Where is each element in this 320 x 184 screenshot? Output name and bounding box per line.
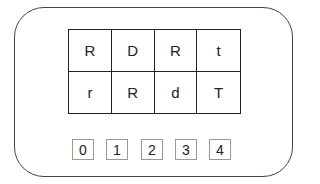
option-2-button[interactable]: 2 bbox=[141, 139, 163, 160]
letter-grid: R D R t r R d T bbox=[68, 29, 241, 114]
grid-cell: t bbox=[197, 30, 240, 72]
option-1-button[interactable]: 1 bbox=[106, 139, 128, 160]
grid-cell: d bbox=[155, 72, 198, 114]
grid-cell: T bbox=[197, 72, 240, 114]
grid-cell: R bbox=[155, 30, 198, 72]
option-4-button[interactable]: 4 bbox=[209, 139, 231, 160]
grid-cell: D bbox=[112, 30, 155, 72]
grid-cell: R bbox=[112, 72, 155, 114]
grid-cell: r bbox=[69, 72, 112, 114]
grid-cell: R bbox=[69, 30, 112, 72]
option-3-button[interactable]: 3 bbox=[175, 139, 197, 160]
option-0-button[interactable]: 0 bbox=[72, 139, 94, 160]
